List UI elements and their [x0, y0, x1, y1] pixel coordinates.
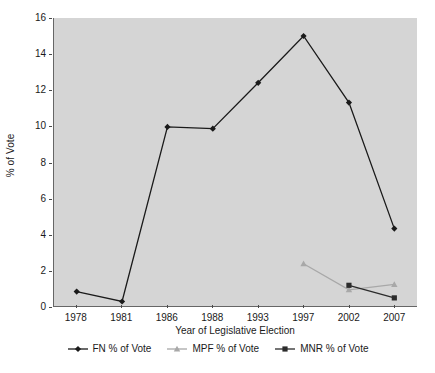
- y-axis-tick-mark: [49, 307, 52, 308]
- legend-marker-icon: [166, 344, 188, 354]
- y-axis-tick-label: 8: [40, 158, 46, 168]
- legend-item-mnr[interactable]: MNR % of Vote: [274, 343, 368, 354]
- data-point-marker: [392, 295, 397, 300]
- x-axis-tick-label: 1988: [201, 312, 223, 323]
- data-point-marker: [164, 124, 170, 130]
- y-axis-tick-label: 4: [40, 230, 46, 240]
- x-axis-tick-mark: [394, 305, 395, 308]
- x-axis-tick-mark: [258, 305, 259, 308]
- y-axis-tick-label: 14: [35, 49, 46, 59]
- x-axis-title: Year of Legislative Election: [53, 325, 417, 336]
- y-axis-tick-mark: [49, 235, 52, 236]
- x-axis-tick-label: 1978: [65, 312, 87, 323]
- y-axis-tick-label: 16: [35, 13, 46, 23]
- y-axis-tick-mark: [49, 18, 52, 19]
- x-axis-tick-mark: [167, 305, 168, 308]
- plot-area: [53, 18, 417, 307]
- x-axis-tick-label: 1997: [292, 312, 314, 323]
- y-axis-tick-label: 12: [35, 85, 46, 95]
- legend-marker-icon: [67, 344, 89, 354]
- data-point-marker: [346, 283, 351, 288]
- x-axis-tick-mark: [303, 305, 304, 308]
- x-axis-tick-mark: [76, 305, 77, 308]
- data-point-marker: [300, 261, 306, 267]
- plot-series-svg: [54, 18, 417, 306]
- data-point-marker: [391, 226, 397, 232]
- data-point-marker: [283, 346, 288, 351]
- legend-item-mpf[interactable]: MPF % of Vote: [166, 343, 259, 354]
- data-point-marker: [119, 298, 125, 304]
- x-axis-title-text: Year of Legislative Election: [175, 325, 295, 336]
- data-point-marker: [74, 289, 80, 295]
- data-point-marker: [74, 345, 80, 351]
- y-axis-tick-mark: [49, 271, 52, 272]
- x-axis-tick-mark: [121, 305, 122, 308]
- y-axis-title-text: % of Vote: [6, 133, 17, 177]
- legend-label: FN % of Vote: [93, 343, 152, 354]
- y-axis-tick-label: 6: [40, 194, 46, 204]
- legend-label: MNR % of Vote: [300, 343, 368, 354]
- x-axis-tick-label: 1981: [110, 312, 132, 323]
- y-axis-tick-mark: [49, 54, 52, 55]
- y-axis-tick-mark: [49, 163, 52, 164]
- x-axis-tick-label: 1986: [156, 312, 178, 323]
- x-axis-tick-mark: [212, 305, 213, 308]
- legend-item-fn[interactable]: FN % of Vote: [67, 343, 152, 354]
- x-axis-tick-label: 1993: [247, 312, 269, 323]
- chart-figure: % of Vote 0246810121416 1978198119861988…: [0, 0, 435, 373]
- y-axis-tick-label: 10: [35, 121, 46, 131]
- x-axis-tick-mark: [349, 305, 350, 308]
- series-fn: [74, 33, 398, 305]
- chart-legend: FN % of VoteMPF % of VoteMNR % of Vote: [0, 343, 435, 354]
- y-axis-tick-label: 2: [40, 266, 46, 276]
- legend-label: MPF % of Vote: [192, 343, 259, 354]
- x-axis-tick-label: 2007: [383, 312, 405, 323]
- x-axis-tick-label: 2002: [338, 312, 360, 323]
- y-axis-tick-mark: [49, 199, 52, 200]
- series-line: [77, 36, 395, 302]
- y-axis-tick-label: 0: [40, 302, 46, 312]
- y-axis-title: % of Vote: [0, 0, 22, 310]
- y-axis-tick-labels: 0246810121416: [20, 18, 50, 307]
- y-axis-tick-mark: [49, 90, 52, 91]
- y-axis-tick-mark: [49, 126, 52, 127]
- legend-marker-icon: [274, 344, 296, 354]
